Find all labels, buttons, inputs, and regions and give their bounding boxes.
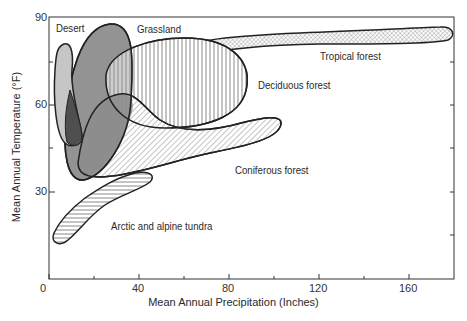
x-tick-0: 0 bbox=[40, 282, 46, 294]
y-tick-60: 60 bbox=[35, 98, 47, 110]
x-tick-120: 120 bbox=[309, 282, 327, 294]
x-tick-40: 40 bbox=[132, 282, 144, 294]
label-coniferous-forest: Coniferous forest bbox=[235, 164, 309, 176]
x-axis-ticks bbox=[49, 274, 409, 279]
x-tick-80: 80 bbox=[222, 282, 234, 294]
label-deciduous-forest: Deciduous forest bbox=[258, 79, 330, 91]
biome-chart bbox=[0, 0, 467, 321]
y-tick-30: 30 bbox=[35, 185, 47, 197]
y-axis-title: Mean Annual Temperature (°F) bbox=[10, 62, 22, 232]
x-axis-title: Mean Annual Precipitation (Inches) bbox=[0, 296, 467, 308]
y-tick-90: 90 bbox=[35, 11, 47, 23]
x-tick-160: 160 bbox=[399, 282, 417, 294]
label-tundra: Arctic and alpine tundra bbox=[111, 220, 213, 232]
region-tundra bbox=[53, 172, 152, 243]
label-tropical-forest: Tropical forest bbox=[320, 50, 381, 62]
label-grassland: Grassland bbox=[137, 23, 181, 35]
label-desert: Desert bbox=[56, 22, 84, 34]
